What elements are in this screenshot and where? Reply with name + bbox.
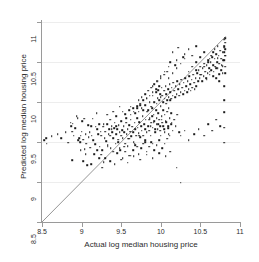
scatter-point	[175, 125, 177, 127]
scatter-point	[184, 53, 186, 55]
scatter-point	[60, 137, 62, 139]
scatter-point	[78, 140, 80, 142]
scatter-point	[82, 160, 84, 162]
scatter-point	[198, 69, 200, 71]
y-tick-label-5: 11	[30, 22, 38, 56]
scatter-point	[97, 128, 99, 130]
scatter-point	[151, 108, 153, 110]
scatter-point	[214, 58, 216, 60]
scatter-point	[123, 125, 125, 127]
scatter-point	[148, 119, 150, 121]
scatter-point	[122, 111, 124, 113]
scatter-point	[166, 121, 168, 123]
scatter-point	[145, 119, 147, 121]
scatter-point	[162, 95, 164, 97]
scatter-point	[187, 80, 189, 82]
scatter-point	[159, 125, 161, 127]
scatter-point	[87, 124, 89, 126]
scatter-point	[101, 135, 103, 137]
scatter-point	[90, 125, 92, 127]
scatter-point	[125, 117, 127, 119]
scatter-point	[136, 105, 138, 107]
scatter-point	[161, 116, 163, 118]
x-tick-1	[82, 223, 83, 227]
scatter-point	[144, 93, 146, 95]
scatter-point	[113, 128, 115, 130]
scatter-point	[150, 125, 152, 127]
scatter-point	[122, 137, 124, 139]
scatter-point	[109, 160, 111, 162]
scatter-point	[134, 143, 136, 145]
scatter-point	[164, 132, 166, 134]
scatter-point	[181, 79, 183, 81]
scatter-point	[208, 68, 210, 70]
scatter-point	[171, 87, 173, 89]
scatter-point	[151, 116, 153, 118]
scatter-point	[118, 124, 120, 126]
scatter-point	[186, 92, 188, 94]
scatter-point	[152, 85, 154, 87]
scatter-point	[161, 119, 163, 121]
scatter-point	[92, 118, 94, 120]
scatter-point	[136, 117, 138, 119]
scatter-point	[209, 74, 211, 76]
scatter-point	[189, 84, 191, 86]
scatter-point	[212, 76, 214, 78]
scatter-point	[179, 84, 181, 86]
scatter-point	[195, 77, 197, 79]
scatter-point	[105, 131, 107, 133]
scatter-point	[110, 148, 112, 150]
scatter-point	[45, 137, 47, 139]
scatter-point	[206, 79, 208, 81]
scatter-point	[134, 122, 136, 124]
scatter-point	[224, 42, 226, 44]
scatter-point	[106, 124, 108, 126]
scatter-point	[138, 132, 140, 134]
scatter-point	[83, 118, 85, 120]
scatter-point	[168, 77, 170, 79]
scatter-point	[219, 125, 221, 127]
scatter-point	[167, 128, 169, 130]
scatter-point	[116, 128, 118, 130]
scatter-point	[176, 68, 178, 70]
scatter-point	[211, 130, 213, 132]
scatter-point	[169, 117, 171, 119]
scatter-point	[160, 76, 162, 78]
scatter-point	[101, 149, 103, 151]
scatter-point	[176, 60, 178, 62]
scatter-point	[223, 60, 225, 62]
x-tick-label-4: 10.5	[194, 228, 208, 236]
scatter-point	[167, 125, 169, 127]
scatter-point	[128, 109, 130, 111]
scatter-point	[223, 39, 225, 41]
scatter-point	[204, 135, 206, 137]
scatter-point	[116, 125, 118, 127]
scatter-point	[224, 55, 226, 57]
scatter-point	[98, 124, 100, 126]
scatter-point	[192, 74, 194, 76]
scatter-point	[211, 69, 213, 71]
scatter-point	[105, 157, 107, 159]
scatter-point	[192, 55, 194, 57]
scatter-point	[157, 128, 159, 130]
scatter-point	[88, 136, 90, 138]
scatter-point	[149, 117, 151, 119]
scatter-point	[160, 105, 162, 107]
scatter-point	[128, 124, 130, 126]
scatter-point	[217, 45, 219, 47]
scatter-point	[152, 143, 154, 145]
scatter-point	[173, 90, 175, 92]
scatter-point	[162, 122, 164, 124]
scatter-point	[140, 148, 142, 150]
scatter-point	[107, 146, 109, 148]
scatter-point	[146, 97, 148, 99]
scatter-point	[170, 98, 172, 100]
scatter-point	[144, 140, 146, 142]
scatter-point	[122, 157, 124, 159]
scatter-point	[180, 92, 182, 94]
scatter-point	[190, 90, 192, 92]
scatter-point	[201, 80, 203, 82]
scatter-point	[93, 140, 95, 142]
scatter-point	[124, 113, 126, 115]
gridline-y-5	[42, 22, 240, 23]
